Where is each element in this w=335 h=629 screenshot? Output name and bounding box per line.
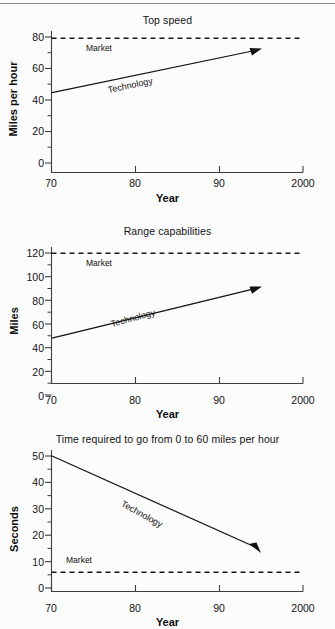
technology-line-top-speed [52,51,255,93]
plot-area-range-capabilities [0,205,335,415]
technology-arrowhead-zero-to-sixty-time [249,543,261,554]
plot-area-zero-to-sixty-time [0,415,335,629]
technology-line-zero-to-sixty-time [52,456,254,547]
figure-page: Top speed Miles per hour 80 60 40 20 0 7… [0,0,335,629]
chart-panel-range-capabilities: Range capabilities Miles 120 100 80 60 4… [0,205,335,415]
chart-panel-top-speed: Top speed Miles per hour 80 60 40 20 0 7… [0,0,335,205]
technology-line-range-capabilities [52,289,255,339]
plot-area-top-speed [0,0,335,205]
technology-arrowhead-top-speed [250,48,263,56]
technology-arrowhead-range-capabilities [250,287,263,294]
chart-panel-zero-to-sixty-time: Time required to go from 0 to 60 miles p… [0,415,335,629]
